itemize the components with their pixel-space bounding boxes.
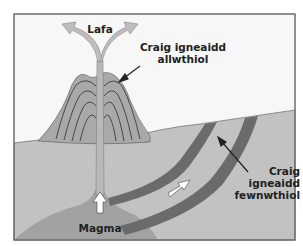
intrusive-label-line2: igneaidd — [230, 177, 300, 189]
intrusive-rock-label: Craig igneaidd fewnwthiol — [230, 165, 300, 201]
lava-label: Lafa — [80, 23, 120, 35]
magma-label: Magma — [70, 222, 130, 234]
extrusive-label-line1: Craig igneaidd — [128, 41, 238, 53]
extrusive-label-line2: allwthiol — [128, 53, 238, 65]
intrusive-label-line3: fewnwthiol — [230, 189, 300, 201]
intrusive-label-line1: Craig — [230, 165, 300, 177]
extrusive-rock-label: Craig igneaidd allwthiol — [128, 41, 238, 65]
volcano-conduit — [96, 60, 104, 195]
igneous-rock-diagram — [0, 0, 303, 246]
